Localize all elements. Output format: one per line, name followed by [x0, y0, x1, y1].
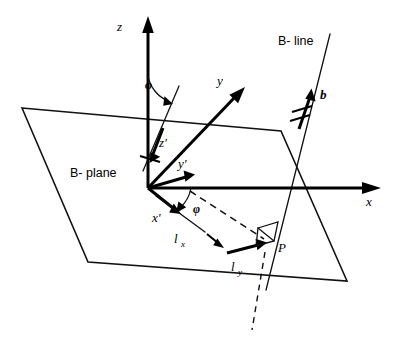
diagram-canvas: z y x z' y' x' φ φ B- line B- plane b l … [0, 0, 395, 339]
l-x-label: l [174, 231, 178, 246]
axis-y-label: y [215, 73, 223, 88]
l-x-subscript: x [180, 239, 185, 249]
axis-x-label: x [365, 194, 372, 209]
l-x-label-group: l x [174, 231, 185, 249]
b-plane-label: B- plane [70, 166, 117, 180]
dashed-projection-to-p [190, 191, 264, 239]
angle-phi-lower-label: φ [193, 202, 200, 216]
b-plane-parallelogram [22, 108, 347, 281]
axis-y-prime-label: y' [176, 156, 187, 171]
dashed-vertical-through-p [252, 252, 265, 330]
point-p-label: P [277, 240, 286, 255]
l-y-arrow [227, 239, 267, 253]
l-y-label: l [231, 259, 235, 274]
l-x-arrow [207, 234, 224, 248]
axis-x-prime-label: x' [151, 210, 161, 225]
b-plane-b-line-diagram: z y x z' y' x' φ φ B- line B- plane b l … [0, 0, 395, 339]
axis-x [148, 182, 381, 194]
axis-z-prime-label: z' [158, 135, 167, 150]
b-line [266, 34, 330, 290]
axis-z [142, 16, 154, 188]
axis-z-label: z [116, 19, 122, 34]
angle-phi-upper-label: φ [145, 78, 152, 92]
burgers-vector-label: b [320, 87, 327, 102]
b-line-label: B- line [278, 34, 313, 48]
l-y-subscript: y [237, 267, 242, 277]
angle-arc-lower [176, 188, 191, 213]
l-y-label-group: l y [231, 259, 242, 277]
